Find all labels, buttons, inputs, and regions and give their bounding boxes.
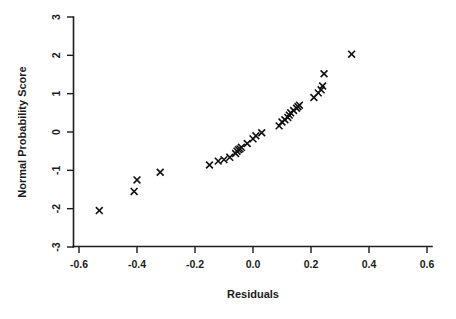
chart-canvas: -0.6-0.4-0.20.00.20.40.6 -3-2-10123 Resi… — [0, 0, 456, 319]
x-tick-label: 0.6 — [420, 258, 435, 270]
data-point — [244, 140, 251, 147]
x-axis-ticks — [79, 247, 427, 253]
data-point — [134, 177, 141, 184]
data-point-markers — [96, 51, 355, 214]
y-tick-label: -1 — [50, 166, 62, 175]
x-axis-tick-labels: -0.6-0.4-0.20.00.20.40.6 — [70, 258, 434, 270]
y-tick-label: 0 — [50, 129, 62, 135]
x-tick-label: -0.2 — [186, 258, 204, 270]
plot-axes — [73, 17, 432, 247]
y-tick-label: -2 — [50, 204, 62, 213]
data-point — [215, 158, 222, 165]
y-axis-tick-labels: -3-2-10123 — [50, 14, 62, 252]
normal-probability-plot: -0.6-0.4-0.20.00.20.40.6 -3-2-10123 Resi… — [0, 0, 456, 319]
data-point — [348, 51, 355, 58]
x-tick-label: 0.4 — [362, 258, 377, 270]
x-tick-label: -0.6 — [70, 258, 88, 270]
y-tick-label: -3 — [50, 242, 62, 251]
x-axis-title: Residuals — [227, 288, 279, 300]
x-tick-label: -0.4 — [128, 258, 146, 270]
data-point — [131, 188, 138, 195]
data-point — [157, 169, 164, 176]
y-axis-ticks — [67, 17, 73, 247]
data-point — [321, 70, 328, 77]
y-axis-title: Normal Probability Score — [16, 66, 28, 197]
data-point — [206, 162, 213, 169]
x-tick-label: 0.2 — [304, 258, 319, 270]
y-tick-label: 3 — [50, 14, 62, 20]
x-tick-label: 0.0 — [246, 258, 261, 270]
y-tick-label: 1 — [50, 91, 62, 97]
y-tick-label: 2 — [50, 52, 62, 58]
data-point — [96, 207, 103, 214]
